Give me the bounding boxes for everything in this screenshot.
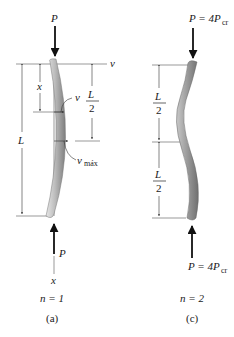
column-buckled-n2	[176, 61, 198, 220]
lower-half-denominator: 2	[156, 182, 162, 194]
deflection-v-label: v	[75, 91, 80, 103]
caption-a: (a)	[46, 312, 59, 325]
max-deflection-subscript: máx	[84, 159, 98, 168]
lower-half-numerator: L	[154, 168, 161, 180]
upper-half-numerator: L	[154, 90, 161, 102]
figure-a: P v L x v L 2 v máx	[16, 12, 115, 325]
max-deflection-label: v	[77, 154, 82, 166]
x-axis-label: x	[50, 274, 56, 286]
half-length-denominator: 2	[89, 102, 95, 114]
load-top-subscript-c: cr	[222, 18, 229, 27]
half-length-numerator: L	[87, 88, 94, 100]
position-x-label: x	[36, 80, 42, 92]
load-top-label-c: P = 4P	[188, 12, 221, 24]
length-label: L	[17, 134, 24, 146]
caption-c: (c)	[186, 312, 199, 325]
max-deflection-leader	[64, 141, 76, 160]
mode-label-c: n = 2	[180, 292, 204, 304]
load-top-label-a: P	[50, 12, 58, 24]
load-bottom-label-a: P	[58, 247, 66, 259]
v-axis-label: v	[110, 57, 115, 69]
figure-c: P = 4P cr L 2 L 2 P = 4P cr n = 2 (c)	[152, 12, 229, 325]
buckling-diagram: P v L x v L 2 v máx	[0, 0, 234, 337]
load-bottom-subscript-c: cr	[221, 266, 228, 275]
column-buckled-n1	[46, 59, 66, 218]
load-bottom-label-c: P = 4P	[187, 260, 220, 272]
mode-label-a: n = 1	[40, 292, 64, 304]
upper-half-denominator: 2	[156, 104, 162, 116]
